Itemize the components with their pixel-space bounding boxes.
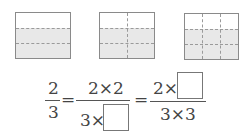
dashed-divider [185, 29, 238, 30]
fraction-3-denominator: 3×3 [160, 106, 196, 123]
answer-blank-box[interactable] [103, 104, 129, 131]
dashed-divider [16, 28, 70, 29]
equals-sign: = [134, 91, 148, 108]
fraction-2-denominator-prefix: 3× [80, 112, 105, 129]
fraction-2-numerator: 2×2 [88, 80, 124, 97]
fraction-bar [45, 100, 60, 101]
dashed-divider [220, 14, 221, 59]
fraction-figure-sixths [99, 12, 155, 59]
fraction-bar [76, 100, 130, 101]
fraction-1-numerator: 2 [48, 80, 59, 97]
dashed-divider [185, 44, 238, 45]
answer-blank-box[interactable] [177, 72, 203, 99]
dashed-divider [202, 14, 203, 59]
fraction-figure-ninths [184, 13, 239, 60]
fraction-bar [150, 101, 206, 102]
dashed-divider [16, 43, 70, 44]
equals-sign: = [61, 91, 75, 108]
dashed-divider [127, 13, 128, 58]
fraction-3-numerator-prefix: 2× [153, 80, 178, 97]
fraction-figure-thirds [15, 12, 71, 59]
fraction-1-denominator: 3 [48, 104, 59, 121]
